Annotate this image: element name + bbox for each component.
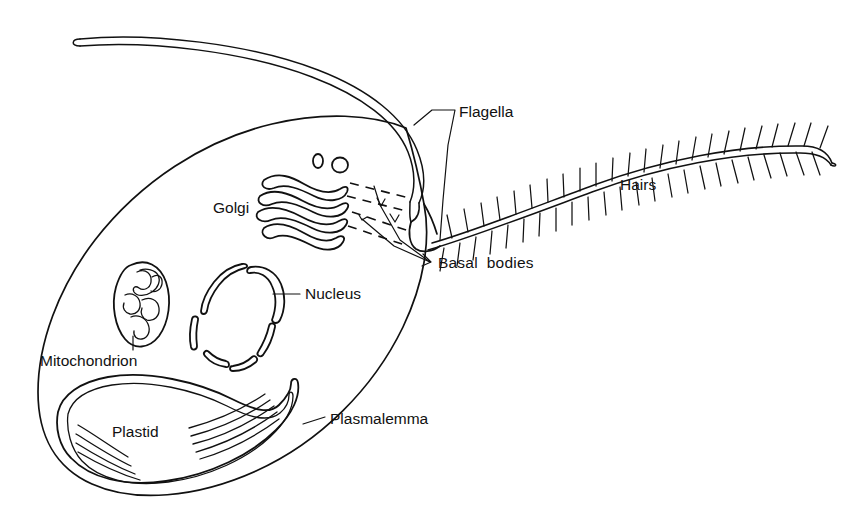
golgi-vesicles [313,154,348,173]
basal-bodies [347,183,409,245]
flagella-leader: Flagella [414,103,514,240]
plastid-thylakoids-right [189,394,279,459]
mitochondrion: Mitochondrion [40,262,169,369]
hairs-label: Hairs [620,176,656,193]
basal-bodies-label: Basal bodies [438,254,534,271]
smooth-flagellum [73,37,423,222]
cell-diagram: Golgi Basal bodies Flagel [0,0,859,526]
plasmalemma-leader: Plasmalemma [303,410,429,427]
nucleus: Nucleus [190,264,361,371]
plastid-label: Plastid [112,423,159,440]
golgi-label: Golgi [213,199,249,216]
plasmalemma-label: Plasmalemma [330,410,429,427]
mitochondrion-label: Mitochondrion [40,352,137,369]
flagellar-hairs [440,123,828,271]
flagella-label: Flagella [459,103,514,120]
diagram-canvas: Golgi Basal bodies Flagel [0,0,859,526]
golgi-apparatus: Golgi [213,154,348,250]
hairy-flagellum [428,123,836,271]
nucleus-label: Nucleus [305,285,361,302]
